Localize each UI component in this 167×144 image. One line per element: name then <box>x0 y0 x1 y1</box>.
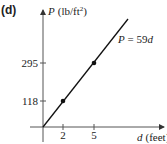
data-point <box>61 99 66 104</box>
equation-label: P = 59d <box>117 33 153 45</box>
x-tick-label: 5 <box>91 129 97 141</box>
x-tick-label: 2 <box>60 129 66 141</box>
chart: (d) P(lb/ft2) d(feet) 295 118 2 5 P = 59… <box>0 0 167 144</box>
data-point <box>92 61 97 66</box>
x-axis-label: d(feet) <box>137 131 167 144</box>
y-axis-label: P(lb/ft2) <box>47 5 87 18</box>
panel-label: (d) <box>1 3 16 17</box>
y-tick-label: 295 <box>22 57 39 69</box>
series-line <box>43 19 128 127</box>
y-tick-label: 118 <box>22 95 39 107</box>
